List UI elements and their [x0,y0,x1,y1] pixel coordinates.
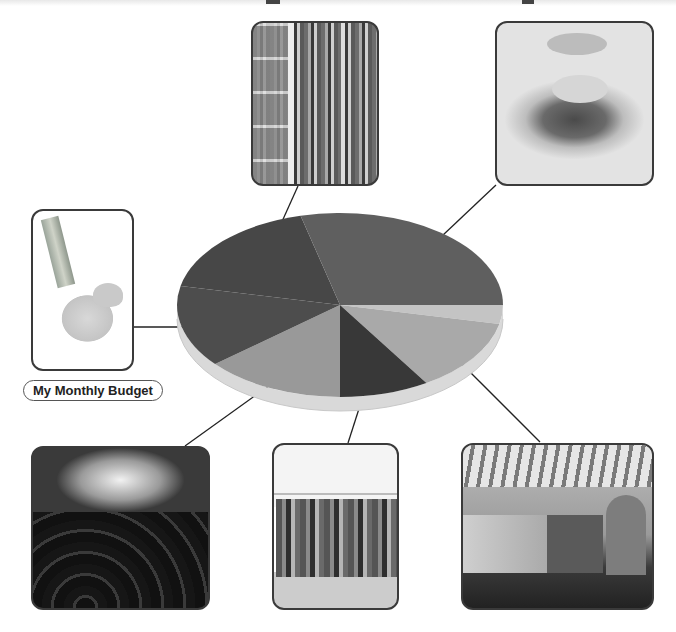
subway-train-image [461,443,654,610]
burger-image [495,21,654,186]
dollar-bill-icon [41,216,75,288]
clothes-rack-image [272,443,399,610]
pie-slices [177,213,503,397]
bookshelf-image [251,21,379,186]
pig-ear [93,283,123,307]
concert-crowd-image [31,446,210,610]
piggy-bank-image [31,209,134,371]
budget-caption: My Monthly Budget [23,380,163,401]
burger-bun [552,75,608,103]
hanging-clothes [276,499,397,577]
station-roof [463,445,652,487]
train [463,515,603,573]
face-mouth [547,33,607,55]
